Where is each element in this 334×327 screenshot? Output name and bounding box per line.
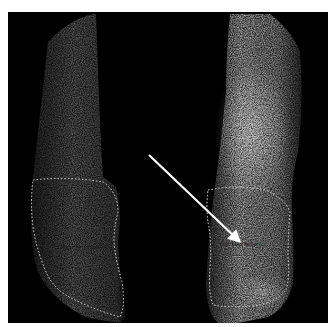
scan-image: Right Fast Pattern Left Fast Pattern: [8, 12, 328, 323]
right-leg-uptake: [206, 14, 302, 323]
right-roi-label: Left Fast Pattern: [220, 241, 262, 247]
left-leg-uptake: [31, 14, 126, 323]
left-roi-label: Right Fast Pattern: [60, 244, 106, 250]
scan-svg: [8, 12, 328, 323]
